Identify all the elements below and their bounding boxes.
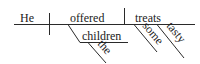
subject-word: He [20,11,34,25]
modifier-word-tasty: tasty [164,19,189,45]
sentence-diagram: He offered treats children the some tast… [0,0,200,64]
verb-word: offered [70,11,104,25]
